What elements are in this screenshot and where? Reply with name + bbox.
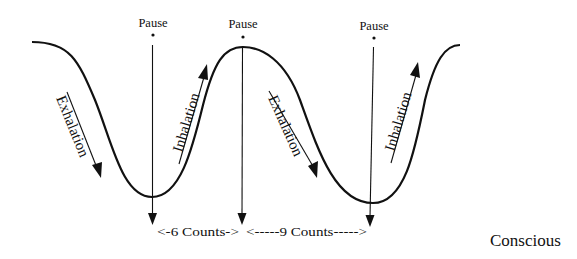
arrow-up-icon [410, 62, 420, 78]
diagram-caption: Conscious [490, 231, 561, 250]
pause-label-2: Pause [228, 17, 258, 31]
pause-marker-2 [238, 35, 247, 225]
arrow-down-icon [148, 213, 157, 225]
arrow-down-icon [308, 161, 318, 178]
pause-label-1: Pause [138, 16, 168, 30]
arrow-down-icon [238, 213, 247, 225]
pause-marker-3 [366, 36, 376, 227]
inhalation-indicator-1: Inhalation [170, 64, 208, 164]
pause-dot-icon [151, 33, 154, 36]
pause-dot-icon [372, 36, 375, 39]
breathing-diagram: Pause Pause Pause Exhalation Inhalation … [0, 0, 577, 259]
exhalation-indicator-2: Exhalation [265, 91, 318, 178]
exhalation-indicator-1: Exhalation [53, 92, 102, 178]
pause-dot-icon [241, 35, 244, 38]
inhalation-label-2: Inhalation [382, 90, 415, 153]
pause-label-3: Pause [359, 19, 389, 33]
arrow-up-icon [198, 64, 208, 80]
interval-label-6-counts: <-6 Counts-> [157, 225, 239, 239]
arrow-down-icon [92, 162, 102, 178]
interval-label-9-counts: <-----9 Counts-----> [246, 225, 367, 239]
exhalation-label-1: Exhalation [53, 93, 92, 160]
